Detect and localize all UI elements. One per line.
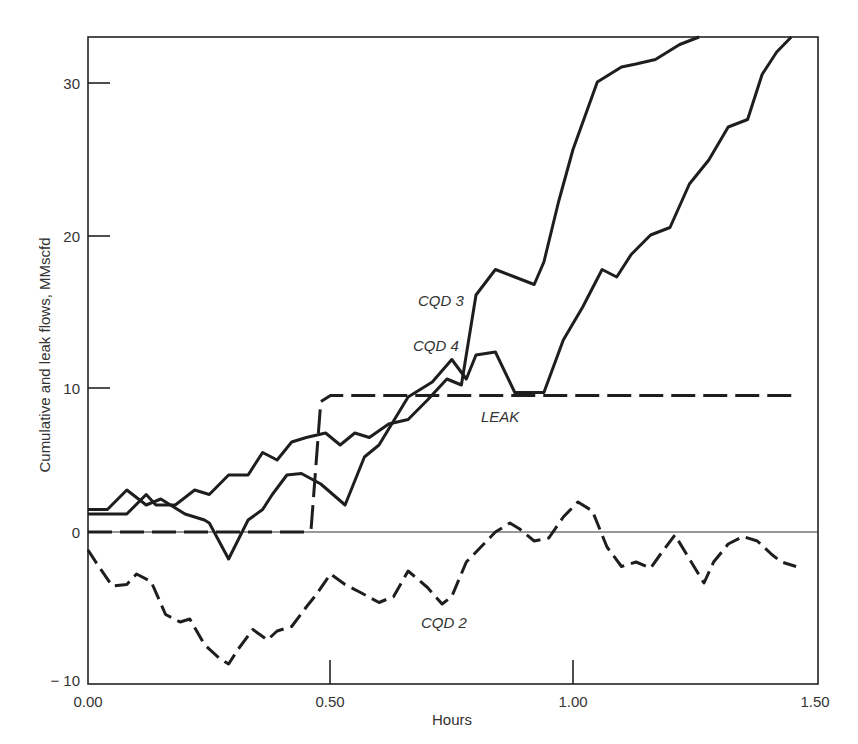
series-line-cqd3 xyxy=(88,37,699,514)
x-tick-label: 1.50 xyxy=(800,693,829,710)
series-line-leak xyxy=(88,396,796,533)
y-axis-title: Cumulative and leak flows, MMscfd xyxy=(36,237,53,472)
x-axis-title: Hours xyxy=(432,711,472,728)
y-tick-label: 20 xyxy=(63,228,80,245)
series-line-cqd2 xyxy=(88,502,796,664)
x-tick-label: 0.00 xyxy=(73,693,102,710)
series-label-cqd4: CQD 4 xyxy=(413,337,459,354)
y-tick-label: 0 xyxy=(72,524,80,541)
x-tick-label: 0.50 xyxy=(315,693,344,710)
x-tick-label: 1.00 xyxy=(558,693,587,710)
y-axis xyxy=(88,83,110,388)
series-label-leak: LEAK xyxy=(481,408,520,425)
y-tick-label: 10 xyxy=(63,380,80,397)
y-tick-label: − 10 xyxy=(50,672,80,689)
x-axis xyxy=(330,660,573,684)
series-label-cqd2: CQD 2 xyxy=(421,614,468,631)
y-tick-label: 30 xyxy=(63,75,80,92)
series-label-cqd3: CQD 3 xyxy=(418,292,465,309)
chart-canvas: 30 20 10 0 − 10 0.00 0.50 1.00 1.50 Hour… xyxy=(0,0,858,744)
